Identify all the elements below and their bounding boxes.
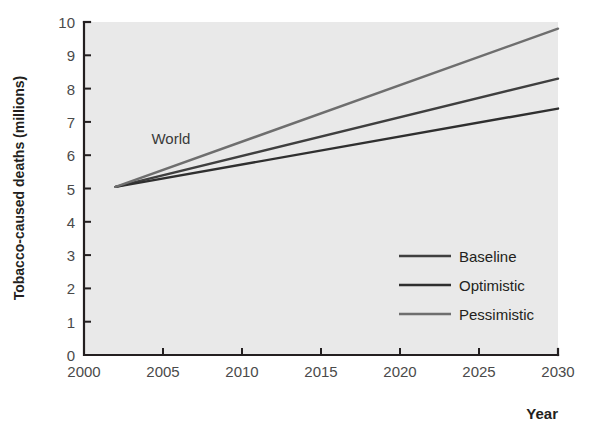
x-tick-label: 2000	[67, 363, 100, 380]
y-tick-label: 3	[67, 247, 75, 264]
x-tick-label: 2005	[146, 363, 179, 380]
y-tick-label: 10	[58, 14, 75, 31]
y-tick-label: 8	[67, 81, 75, 98]
x-tick-label: 2025	[462, 363, 495, 380]
chart-annotations: World	[151, 130, 190, 147]
y-tick-label: 9	[67, 47, 75, 64]
x-tick-label: 2030	[541, 363, 574, 380]
y-tick-label: 7	[67, 114, 75, 131]
legend-label-baseline: Baseline	[459, 248, 517, 265]
y-axis-title: Tobacco-caused deaths (millions)	[11, 76, 27, 301]
tobacco-deaths-line-chart: 012345678910 200020052010201520202025203…	[0, 0, 606, 431]
x-tick-label: 2015	[304, 363, 337, 380]
annotation-label: World	[151, 130, 190, 147]
y-tick-label: 1	[67, 314, 75, 331]
y-tick-label: 4	[67, 214, 75, 231]
y-tick-label: 0	[67, 347, 75, 364]
x-axis-tick-labels: 2000200520102015202020252030	[67, 363, 574, 380]
x-tick-label: 2010	[225, 363, 258, 380]
y-axis-tick-labels: 012345678910	[58, 14, 75, 364]
legend-label-pessimistic: Pessimistic	[459, 306, 535, 323]
y-tick-label: 2	[67, 280, 75, 297]
x-axis-title: Year	[526, 405, 558, 422]
y-tick-label: 6	[67, 147, 75, 164]
x-tick-label: 2020	[383, 363, 416, 380]
y-tick-label: 5	[67, 181, 75, 198]
chart-figure: 012345678910 200020052010201520202025203…	[0, 0, 606, 431]
legend-label-optimistic: Optimistic	[459, 277, 525, 294]
